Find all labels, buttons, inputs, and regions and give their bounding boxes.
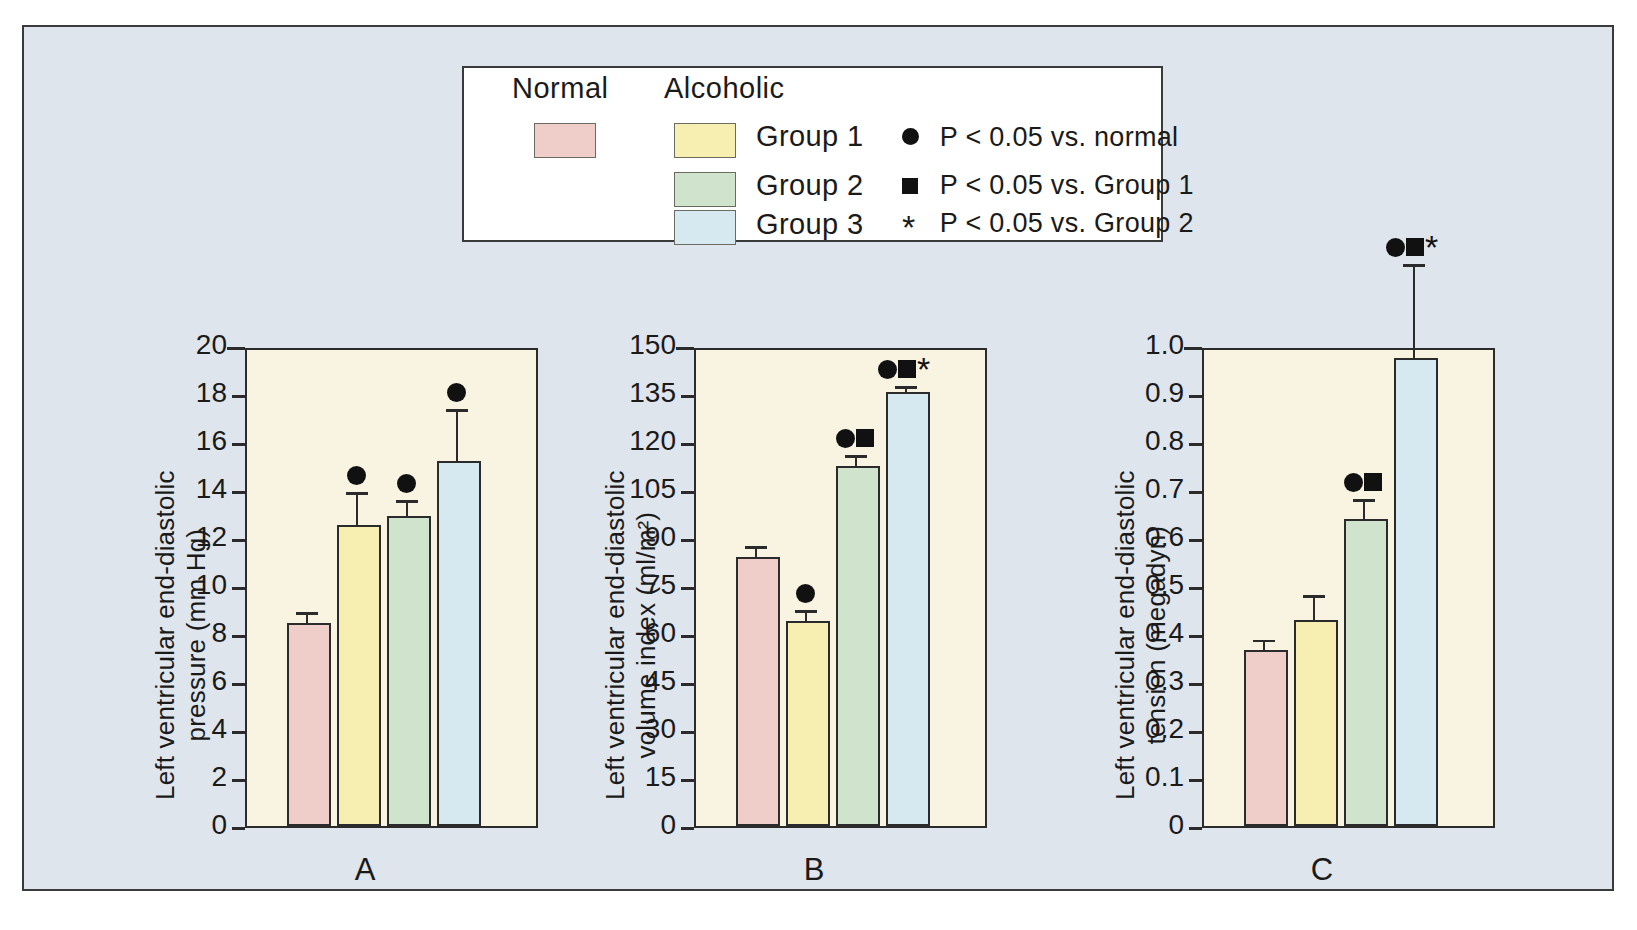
y-tick-mark (681, 491, 694, 494)
y-tick-mark (232, 395, 245, 398)
y-tick-label: 0.4 (1094, 617, 1184, 649)
y-tick-mark (1189, 731, 1202, 734)
circle-marker-icon (878, 360, 897, 379)
significance-marker (836, 429, 874, 448)
y-tick-label: 0.5 (1094, 569, 1184, 601)
y-tick-mark (232, 539, 245, 542)
error-bar (456, 409, 459, 463)
panel-letter-a: A (335, 852, 395, 888)
y-tick-mark (681, 683, 694, 686)
legend-normal-title: Normal (512, 72, 608, 105)
y-tick-label: 45 (586, 665, 676, 697)
y-tick-label: 15 (586, 761, 676, 793)
y-tick-mark (232, 443, 245, 446)
square-marker-icon (902, 170, 932, 201)
plot-area-c (1202, 348, 1495, 828)
legend-stat-text-1: P < 0.05 vs. normal (940, 122, 1179, 152)
y-tick-mark (227, 347, 245, 350)
square-marker-icon (1364, 473, 1382, 491)
circle-marker-icon (397, 474, 416, 493)
panel-letter-b: B (784, 852, 844, 888)
y-tick-mark (1189, 443, 1202, 446)
y-tick-mark (232, 683, 245, 686)
y-tick-label: 135 (586, 377, 676, 409)
y-tick-mark (1189, 395, 1202, 398)
y-tick-label: 14 (137, 473, 227, 505)
significance-marker (796, 584, 815, 603)
y-tick-label: 6 (137, 665, 227, 697)
y-tick-mark (232, 827, 245, 830)
significance-marker (347, 466, 366, 485)
y-tick-label: 0.9 (1094, 377, 1184, 409)
y-tick-mark (681, 539, 694, 542)
circle-marker-icon (1386, 238, 1405, 257)
y-tick-label: 0.1 (1094, 761, 1184, 793)
bar (786, 621, 830, 826)
y-tick-label: 8 (137, 617, 227, 649)
error-bar-cap (895, 386, 917, 389)
legend-stat-row-1: P < 0.05 vs. normal (902, 122, 1178, 153)
y-tick-label: 0.6 (1094, 521, 1184, 553)
y-tick-label: 90 (586, 521, 676, 553)
error-bar (1313, 595, 1316, 621)
y-tick-label: 0 (1094, 809, 1184, 841)
error-bar-cap (1253, 640, 1275, 643)
y-tick-mark (681, 635, 694, 638)
error-bar (406, 500, 409, 518)
significance-marker (1344, 473, 1382, 492)
legend-swatch-normal (534, 123, 596, 158)
y-tick-label: 12 (137, 521, 227, 553)
significance-marker (447, 383, 466, 402)
y-tick-label: 20 (137, 329, 227, 361)
legend-stat-text-3: P < 0.05 vs. Group 2 (940, 208, 1194, 238)
y-tick-label: 4 (137, 713, 227, 745)
panel-letter-c: C (1292, 852, 1352, 888)
y-tick-label: 1.0 (1094, 329, 1184, 361)
legend-stat-text-2: P < 0.05 vs. Group 1 (940, 170, 1194, 200)
asterisk-marker-icon: * (1425, 238, 1438, 256)
y-tick-mark (232, 731, 245, 734)
y-tick-label: 120 (586, 425, 676, 457)
circle-marker-icon (1344, 473, 1363, 492)
significance-marker: * (1386, 238, 1438, 257)
bar (1394, 358, 1438, 826)
square-marker-icon (856, 429, 874, 447)
error-bar (1413, 264, 1416, 360)
square-marker-icon (1406, 238, 1424, 256)
significance-marker (397, 474, 416, 493)
y-tick-mark (681, 395, 694, 398)
y-tick-mark (681, 587, 694, 590)
bar (337, 525, 381, 826)
legend-stat-row-3: * P < 0.05 vs. Group 2 (902, 208, 1194, 239)
error-bar-cap (1353, 499, 1375, 502)
y-tick-mark (681, 779, 694, 782)
y-tick-label: 150 (586, 329, 676, 361)
y-tick-label: 2 (137, 761, 227, 793)
bar (1344, 519, 1388, 826)
error-bar-cap (446, 409, 468, 412)
bar (736, 557, 780, 826)
legend-alcoholic-title: Alcoholic (664, 72, 785, 105)
error-bar-cap (795, 610, 817, 613)
y-tick-label: 0.2 (1094, 713, 1184, 745)
y-tick-mark (232, 635, 245, 638)
legend-label-group-2: Group 2 (756, 169, 864, 202)
y-tick-mark (681, 731, 694, 734)
y-tick-mark (232, 587, 245, 590)
y-tick-label: 60 (586, 617, 676, 649)
y-tick-label: 105 (586, 473, 676, 505)
y-tick-mark (1189, 587, 1202, 590)
asterisk-marker-icon: * (917, 360, 930, 378)
y-tick-mark (676, 347, 694, 350)
y-tick-mark (232, 779, 245, 782)
legend-stat-row-2: P < 0.05 vs. Group 1 (902, 170, 1194, 201)
bar (1244, 650, 1288, 826)
y-tick-mark (1189, 827, 1202, 830)
plot-area-a (245, 348, 538, 828)
plot-area-b (694, 348, 987, 828)
y-tick-label: 0.3 (1094, 665, 1184, 697)
y-tick-label: 18 (137, 377, 227, 409)
legend-swatch-group-2 (674, 172, 736, 207)
circle-marker-icon (796, 584, 815, 603)
y-tick-label: 0 (137, 809, 227, 841)
